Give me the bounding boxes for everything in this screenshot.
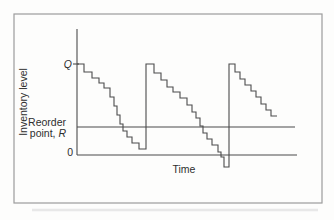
- x-axis-label: Time: [173, 163, 196, 175]
- zero-label: 0: [67, 146, 73, 158]
- reorder-label-line1: Reorder: [28, 116, 66, 128]
- figure-border: [14, 14, 322, 203]
- y-axis-label: Inventory level: [17, 68, 29, 136]
- q-label: Q: [64, 58, 72, 70]
- reorder-variable-label: R: [58, 127, 66, 139]
- reorder-label-prefix: point,: [30, 127, 59, 139]
- reorder-label-line2: point, R: [30, 127, 67, 139]
- inventory-cycle-diagram: Q Reorder point, R 0 Inventory level Tim…: [0, 0, 334, 220]
- diagram-canvas: Q Reorder point, R 0 Inventory level Tim…: [0, 0, 334, 220]
